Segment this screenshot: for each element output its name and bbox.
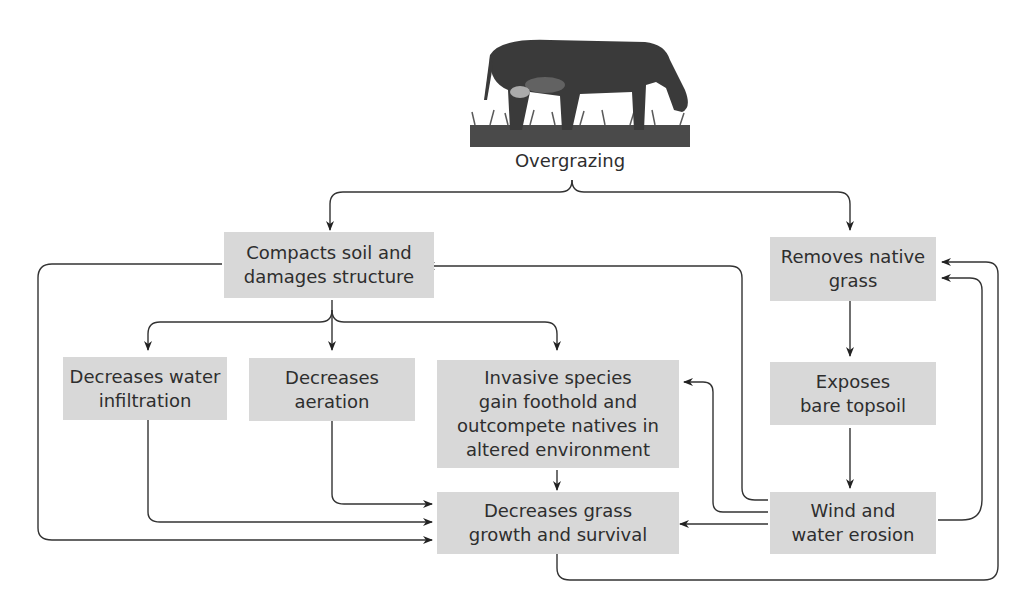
node-invasive-species: Invasive species gain foothold and outco… <box>437 360 679 468</box>
node-exposes-bare-topsoil: Exposes bare topsoil <box>770 362 936 425</box>
node-wind-water-erosion: Wind and water erosion <box>770 492 936 554</box>
node-removes-native-grass: Removes native grass <box>770 237 936 301</box>
node-decreases-grass-growth: Decreases grass growth and survival <box>437 492 679 554</box>
overgrazing-diagram: Overgrazing <box>0 0 1024 613</box>
node-compacts-soil: Compacts soil and damages structure <box>224 232 434 298</box>
node-decreases-aeration: Decreases aeration <box>249 358 415 421</box>
node-decreases-water-infiltration: Decreases water infiltration <box>63 357 227 420</box>
